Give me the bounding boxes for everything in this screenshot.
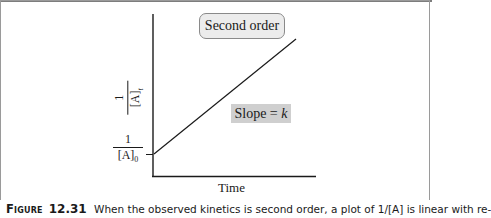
order-label-box: Second order	[199, 13, 285, 39]
figure-caption: Figure12.31 When the observed kinetics i…	[6, 202, 491, 216]
caption-figure-number: 12.31	[49, 202, 87, 216]
y-label-numerator: 1	[113, 81, 126, 115]
caption-figure-word: Figure	[6, 202, 43, 216]
slope-prefix: Slope =	[234, 106, 281, 121]
data-line	[154, 39, 296, 154]
y-tick-numerator: 1	[113, 133, 143, 146]
slope-label-box: Slope = k	[231, 104, 291, 123]
x-axis-label: Time	[218, 180, 245, 196]
caption-text: When the observed kinetics is second ord…	[94, 203, 491, 215]
y-axis-label: 1 [A]t	[113, 81, 146, 115]
y-tick-label: 1 [A]0	[113, 133, 143, 166]
y-tick-denominator: [A]0	[113, 149, 143, 166]
y-label-denominator: [A]t	[129, 81, 146, 115]
slope-variable: k	[281, 106, 287, 121]
